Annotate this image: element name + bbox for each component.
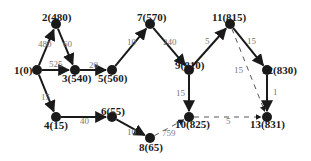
edge-weight-label: 15	[247, 36, 257, 46]
edge-weight-label: 60	[63, 39, 73, 49]
edge-weight-label: 759	[162, 128, 176, 138]
labels-layer: 4806052520102405151511551540107591(0)2(4…	[14, 11, 297, 154]
edge-weight-label: 15	[234, 65, 244, 75]
edge-weight-label: 40	[80, 116, 90, 126]
edge-weight-label: 5	[226, 116, 231, 126]
node-label: 10(825)	[175, 118, 210, 131]
edge-weight-label: 20	[89, 60, 99, 70]
edge-weight-label: 5	[205, 36, 210, 46]
node-label: 5(560)	[98, 72, 128, 85]
edge-5-7	[115, 29, 146, 67]
node-label: 1(0)	[14, 64, 33, 77]
edge-weight-label: 10	[127, 37, 137, 47]
node-label: 6(55)	[101, 105, 125, 118]
node-1	[32, 65, 42, 75]
edge-weight-label: 240	[163, 37, 177, 47]
node-label: 4(15)	[44, 119, 68, 132]
node-label: 8(65)	[139, 141, 163, 154]
node-label: 12(830)	[262, 64, 297, 77]
edge-weight-label: 525	[49, 59, 63, 69]
edge-weight-label: 1	[273, 87, 278, 97]
node-label: 7(570)	[137, 11, 167, 24]
edge-weight-label: 15	[41, 92, 51, 102]
node-label: 3(540)	[62, 72, 92, 85]
network-diagram: 4806052520102405151511551540107591(0)2(4…	[0, 0, 311, 161]
node-label: 9(810)	[175, 59, 205, 72]
node-label: 13(831)	[250, 118, 285, 131]
node-label: 11(815)	[212, 11, 247, 24]
node-label: 2(480)	[42, 11, 72, 24]
edge-weight-label: 15	[176, 88, 186, 98]
edge-weight-label: 480	[38, 39, 52, 49]
edge-weight-label: 10	[127, 127, 137, 137]
edge-11-12	[233, 28, 263, 65]
